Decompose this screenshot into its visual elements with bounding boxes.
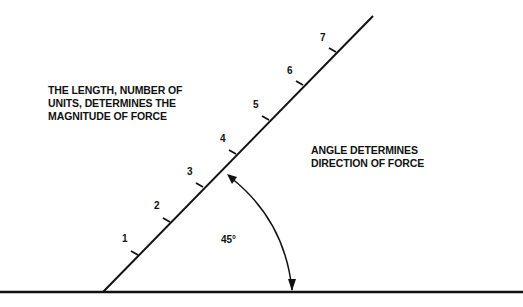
magnitude-caption: THE LENGTH, NUMBER OF UNITS, DETERMINES … <box>48 84 182 123</box>
arc-arrowhead-top <box>227 174 237 184</box>
force-vector-diagram: 1 2 3 4 5 6 7 THE LENGTH, NUMBER OF UNIT… <box>0 0 523 307</box>
arc-arrowhead-bottom <box>288 279 296 291</box>
tick-label-6: 6 <box>287 65 293 76</box>
angle-arc <box>230 177 292 290</box>
tick-label-2: 2 <box>154 200 160 211</box>
diagram-graphics <box>0 0 523 307</box>
tick-label-7: 7 <box>320 32 326 43</box>
direction-caption: ANGLE DETERMINES DIRECTION OF FORCE <box>311 144 424 170</box>
tick-label-4: 4 <box>220 133 226 144</box>
angle-label: 45° <box>221 234 236 245</box>
tick-label-5: 5 <box>253 99 259 110</box>
unit-ticks <box>131 48 336 255</box>
tick-label-1: 1 <box>122 233 128 244</box>
tick-label-3: 3 <box>187 166 193 177</box>
